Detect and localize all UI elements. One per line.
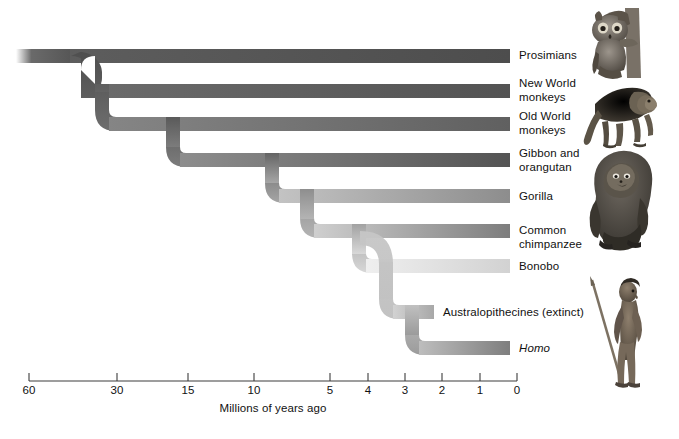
taxon-label-common-chimpanzee: Common chimpanzee — [519, 224, 582, 251]
axis-tick-label-30: 30 — [111, 384, 124, 396]
branch-homo — [419, 341, 510, 355]
branch-prosimians — [70, 49, 510, 63]
taxon-label-new-world-monkeys: New World monkeys — [519, 77, 576, 104]
taxon-label-homo: Homo — [519, 342, 550, 356]
axis-tick-label-5: 5 — [327, 384, 334, 396]
figure-root: Prosimians New World monkeys Old World m… — [0, 0, 679, 439]
caption-fragment — [588, 427, 676, 436]
axis-tick-label-3: 3 — [402, 384, 409, 396]
branch-gibbon-orangutan — [180, 153, 510, 167]
axis-tick-label-15: 15 — [182, 384, 195, 396]
axis-tick-label-60: 60 — [23, 384, 36, 396]
tree-branches — [16, 49, 510, 355]
taxon-label-gorilla: Gorilla — [519, 190, 553, 204]
taxon-label-gibbon-and-orangutan: Gibbon and orangutan — [519, 147, 579, 174]
axis-title: Millions of years ago — [220, 402, 327, 414]
axis-tick-label-4: 4 — [365, 384, 372, 396]
taxon-label-australopithecines: Australopithecines (extinct) — [443, 306, 584, 320]
taxon-label-bonobo: Bonobo — [519, 260, 559, 274]
axis-tick-label-10: 10 — [248, 384, 261, 396]
taxon-label-prosimians: Prosimians — [519, 49, 577, 63]
axis-tick-label-0: 0 — [514, 384, 521, 396]
axis-tick-label-1: 1 — [477, 384, 484, 396]
illustration-plates — [584, 8, 657, 388]
branch-new-world-monkeys — [95, 84, 510, 98]
axis-tick-label-2: 2 — [439, 384, 446, 396]
baboon-illustration — [584, 88, 657, 148]
taxon-label-old-world-monkeys: Old World monkeys — [519, 110, 571, 137]
hominid-illustration — [590, 276, 642, 388]
time-axis — [29, 373, 517, 381]
phylogenetic-tree-svg — [0, 0, 679, 439]
branch-common-chimpanzee — [314, 224, 510, 238]
tarsier-illustration — [592, 8, 641, 79]
gorilla-illustration — [590, 151, 653, 251]
